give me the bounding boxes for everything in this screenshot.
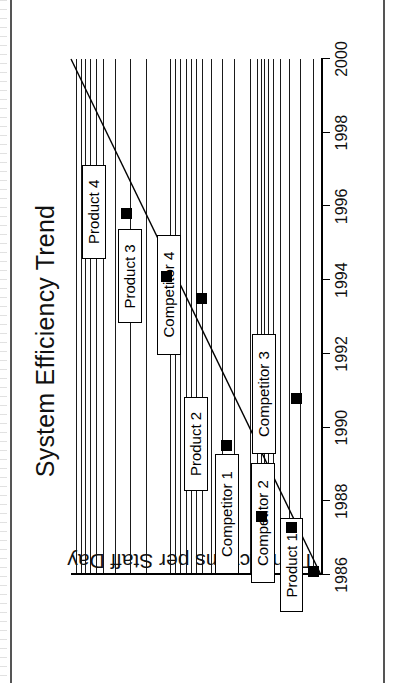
data-point-label: Product 2 bbox=[184, 397, 208, 491]
scan-artifact-strip bbox=[0, 0, 7, 683]
data-point-marker bbox=[291, 393, 302, 404]
data-point-label: Competitor 2 bbox=[251, 463, 275, 583]
x-tick-label: 1988 bbox=[333, 484, 351, 520]
x-tick-label: 1992 bbox=[333, 336, 351, 372]
x-tick bbox=[321, 58, 330, 59]
x-tick-label: 1998 bbox=[333, 115, 351, 151]
data-point-label: Product 4 bbox=[82, 165, 106, 259]
x-tick bbox=[321, 500, 330, 501]
x-axis-line bbox=[321, 59, 323, 575]
data-point-marker bbox=[221, 441, 232, 452]
x-tick bbox=[321, 427, 330, 428]
x-tick-label: 2000 bbox=[333, 41, 351, 77]
x-tick bbox=[321, 353, 330, 354]
data-point-marker bbox=[286, 522, 297, 533]
x-tick bbox=[321, 279, 330, 280]
x-tick-label: 1994 bbox=[333, 262, 351, 298]
data-point-label: Competitor 4 bbox=[157, 235, 181, 355]
x-tick bbox=[321, 132, 330, 133]
x-tick-label: 1990 bbox=[333, 410, 351, 446]
data-point-marker bbox=[121, 208, 132, 219]
data-point-marker bbox=[256, 511, 267, 522]
x-tick-label: 1996 bbox=[333, 189, 351, 225]
data-point-marker bbox=[161, 271, 172, 282]
data-point-label: Product 3 bbox=[118, 229, 142, 323]
x-tick bbox=[321, 205, 330, 206]
data-point-marker bbox=[196, 293, 207, 304]
data-point-label: Competitor 1 bbox=[215, 454, 239, 574]
data-point-label: Competitor 3 bbox=[252, 334, 276, 454]
figure-page: System Efficiency Trend 1986198819901992… bbox=[0, 0, 404, 683]
page-rule-right bbox=[383, 0, 385, 683]
page-rule-left bbox=[10, 0, 12, 683]
x-tick bbox=[321, 574, 330, 575]
data-point-marker bbox=[308, 566, 319, 577]
chart-stage: System Efficiency Trend 1986198819901992… bbox=[27, 41, 377, 641]
trend-line bbox=[71, 59, 321, 575]
